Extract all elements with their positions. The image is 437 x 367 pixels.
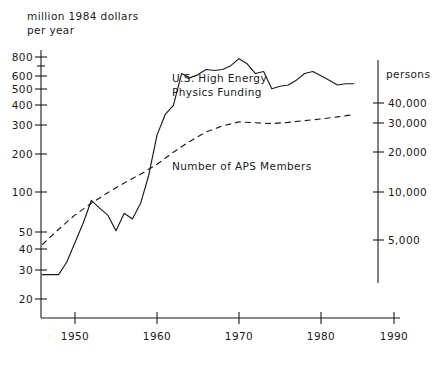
- annotation-hep-funding-line1: U.S. High Energy: [172, 72, 267, 84]
- left-axis-title-line1: million 1984 dollars: [27, 10, 139, 22]
- left-tick-label-300: 300: [12, 119, 33, 131]
- right-tick-label-5000: 5,000: [388, 234, 420, 246]
- right-tick-label-20000: 20,000: [388, 146, 427, 158]
- right-axis-ticks: 40,000 30,000 20,000 10,000 5,000: [373, 97, 427, 246]
- annotation-hep-funding-line2: Physics Funding: [172, 86, 262, 98]
- left-tick-label-200: 200: [12, 148, 33, 160]
- annotation-aps-members: Number of APS Members: [172, 160, 312, 172]
- left-tick-label-500: 500: [12, 83, 33, 95]
- right-tick-label-10000: 10,000: [388, 186, 427, 198]
- x-tick-label-1970: 1970: [225, 330, 253, 342]
- left-tick-label-400: 400: [12, 99, 33, 111]
- left-tick-label-800: 800: [12, 51, 33, 63]
- left-tick-label-40: 40: [19, 243, 33, 255]
- left-tick-label-50: 50: [19, 226, 33, 238]
- left-tick-label-20: 20: [19, 293, 33, 305]
- right-axis-title: persons: [386, 68, 430, 80]
- left-tick-label-100: 100: [12, 186, 33, 198]
- left-tick-label-30: 30: [19, 264, 33, 276]
- chart-container: million 1984 dollars per year persons 80…: [0, 0, 437, 367]
- x-tick-label-1990: 1990: [380, 330, 408, 342]
- x-tick-label-1960: 1960: [143, 330, 171, 342]
- x-tick-label-1980: 1980: [307, 330, 335, 342]
- left-axis-title-line2: per year: [27, 24, 75, 36]
- x-axis-ticks: 1950 1960 1970 1980 1990: [61, 312, 408, 342]
- series-line-aps-members: [42, 115, 354, 245]
- x-tick-label-1950: 1950: [61, 330, 89, 342]
- left-axis-ticks: 800 600 500 400 300 200 100 50 40 30 20: [12, 51, 47, 305]
- right-tick-label-40000: 40,000: [388, 97, 427, 109]
- left-tick-label-600: 600: [12, 70, 33, 82]
- right-tick-label-30000: 30,000: [388, 117, 427, 129]
- physics-funding-chart: million 1984 dollars per year persons 80…: [0, 0, 437, 367]
